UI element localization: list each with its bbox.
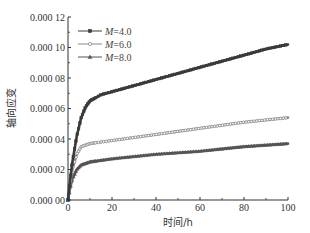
x-tick-label: 40 xyxy=(151,202,161,213)
legend-item: M=6.0 xyxy=(78,39,131,50)
y-tick-label: 0.000 02 xyxy=(30,164,65,175)
y-tick-label: 0.000 12 xyxy=(30,12,65,23)
x-tick-label: 60 xyxy=(195,202,205,213)
series-m-8-0 xyxy=(66,142,288,201)
y-tick-label: 0.000 06 xyxy=(30,103,65,114)
legend: M=4.0M=6.0M=8.0 xyxy=(78,26,131,63)
x-tick-label: 80 xyxy=(239,202,249,213)
legend-item: M=8.0 xyxy=(78,52,131,63)
y-tick-label: 0.000 04 xyxy=(30,134,65,145)
series-m-6-0 xyxy=(67,117,288,202)
legend-item: M=4.0 xyxy=(78,26,131,37)
y-tick-label: 0.000 08 xyxy=(30,73,65,84)
x-tick-label: 100 xyxy=(281,202,296,213)
x-tick-label: 0 xyxy=(66,202,71,213)
legend-label: M=4.0 xyxy=(104,26,131,37)
x-tick-label: 20 xyxy=(107,202,117,213)
strain-time-chart: 0.000 000.000 020.000 040.000 060.000 08… xyxy=(0,0,310,233)
y-tick-label: 0.000 10 xyxy=(30,42,65,53)
x-axis-title: 时间/h xyxy=(163,216,193,228)
legend-label: M=6.0 xyxy=(104,39,131,50)
plot-series-group xyxy=(66,44,288,202)
y-axis-title: 轴向应变 xyxy=(5,88,17,128)
y-tick-label: 0.000 00 xyxy=(30,195,65,206)
legend-label: M=8.0 xyxy=(104,52,131,63)
